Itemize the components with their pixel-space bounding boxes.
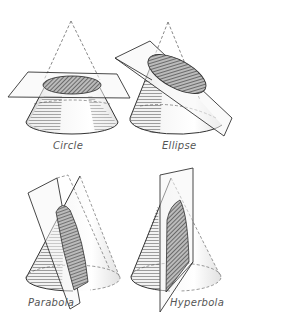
label-circle: Circle [53, 140, 83, 151]
panel-parabola [26, 175, 120, 309]
panel-circle [8, 21, 130, 134]
label-parabola: Parabola [28, 297, 74, 308]
label-hyperbola: Hyperbola [170, 297, 224, 308]
cone-shading [132, 206, 160, 290]
panel-hyperbola [131, 168, 221, 312]
cone-edge-dashed [44, 21, 71, 80]
label-ellipse: Ellipse [162, 140, 196, 151]
conic-sections-diagram [0, 0, 292, 319]
circle-section [43, 76, 101, 94]
panel-ellipse [115, 22, 232, 136]
cone-edge-dashed [71, 21, 100, 80]
